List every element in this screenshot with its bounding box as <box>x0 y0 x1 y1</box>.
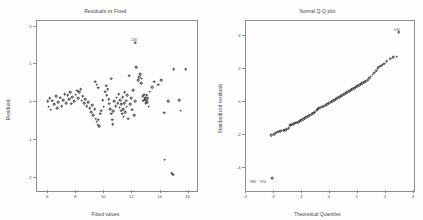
y-axis-tick <box>242 68 245 69</box>
x-axis-tick-label: 2 <box>384 194 386 199</box>
data-point <box>49 108 52 111</box>
data-point <box>117 93 120 96</box>
y-axis-tick-label: -4 <box>237 164 241 169</box>
data-point <box>157 84 160 87</box>
residuals-vs-fitted-frame <box>36 20 198 192</box>
data-point <box>287 127 290 130</box>
x-axis-tick-label: 1 <box>356 194 358 199</box>
data-point <box>133 114 136 117</box>
normal-qq-panel: Normal Q-Q plot 240980970-3-2-10123-4-20… <box>212 0 423 220</box>
data-point <box>78 91 81 94</box>
data-point <box>114 105 117 108</box>
y-axis-tick <box>242 134 245 135</box>
data-point <box>127 118 130 121</box>
x-axis-tick-label: 3 <box>412 194 414 199</box>
data-point <box>108 102 111 105</box>
data-point <box>101 99 104 102</box>
data-point <box>84 98 87 101</box>
y-axis-tick-label: -1 <box>28 137 32 142</box>
y-axis-tick <box>33 177 36 178</box>
residuals-vs-fitted-canvas <box>37 21 197 191</box>
data-point <box>153 81 156 84</box>
data-point <box>130 97 133 100</box>
data-point <box>107 88 110 91</box>
x-axis-tick <box>301 190 302 193</box>
data-point <box>68 98 71 101</box>
y-axis-tick <box>242 35 245 36</box>
y-axis-tick <box>242 101 245 102</box>
data-point <box>46 100 49 103</box>
data-point <box>53 103 56 106</box>
data-point <box>104 90 107 93</box>
point-label: 240 <box>394 28 400 32</box>
residuals-vs-fitted-xlabel: Fitted values <box>0 212 211 217</box>
data-point <box>163 158 166 161</box>
normal-qq-xlabel: Theoretical Quantiles <box>212 212 423 217</box>
x-axis-tick-label: 0 <box>328 194 330 199</box>
data-point <box>97 118 100 121</box>
data-point <box>91 104 94 107</box>
y-axis-tick <box>242 167 245 168</box>
data-point <box>79 88 82 91</box>
data-point <box>97 87 100 90</box>
data-point <box>92 114 95 117</box>
x-axis-tick <box>75 190 76 193</box>
x-axis-tick-label: 14 <box>157 194 162 199</box>
data-point <box>149 90 152 93</box>
normal-qq-canvas <box>246 21 414 191</box>
data-point <box>119 99 122 102</box>
data-point <box>126 94 129 97</box>
normal-qq-ylabel: Standardized residuals <box>218 86 223 134</box>
data-point <box>93 108 96 111</box>
data-point <box>73 100 76 103</box>
data-point <box>147 97 150 100</box>
x-axis-tick <box>273 190 274 193</box>
y-axis-tick-label: -2 <box>28 174 32 179</box>
data-point <box>140 78 143 81</box>
data-point <box>112 110 115 113</box>
data-point <box>110 112 113 115</box>
data-point <box>83 102 86 105</box>
data-point <box>172 173 175 176</box>
y-axis-tick-label: 1 <box>29 61 31 66</box>
data-point <box>81 95 84 98</box>
data-point <box>395 55 398 58</box>
x-axis-tick <box>245 190 246 193</box>
data-point <box>137 79 140 82</box>
y-axis-tick-label: 0 <box>29 99 31 104</box>
x-axis-tick-label: 16 <box>185 194 190 199</box>
residuals-vs-fitted-title: Residuals vs Fitted <box>0 9 211 14</box>
data-point <box>105 84 108 87</box>
data-point <box>121 96 124 99</box>
x-axis-tick <box>413 190 414 193</box>
data-point <box>62 99 65 102</box>
x-axis-tick <box>131 190 132 193</box>
y-axis-tick <box>33 101 36 102</box>
x-axis-tick <box>160 190 161 193</box>
data-point <box>123 102 126 105</box>
data-point <box>151 86 154 89</box>
y-axis-tick <box>33 139 36 140</box>
data-point <box>389 57 392 60</box>
data-point <box>134 100 137 103</box>
data-point <box>124 111 127 114</box>
data-point <box>100 109 103 112</box>
data-point <box>87 101 90 104</box>
data-point <box>88 107 91 110</box>
x-axis-tick-label: -3 <box>243 194 247 199</box>
data-point <box>98 125 101 128</box>
data-point <box>102 105 105 108</box>
x-axis-tick <box>329 190 330 193</box>
x-axis-tick-label: 8 <box>74 194 76 199</box>
data-point <box>60 105 63 108</box>
y-axis-tick-label: 4 <box>238 32 240 37</box>
normal-qq-frame <box>245 20 415 192</box>
y-axis-tick-label: 2 <box>29 23 31 28</box>
y-axis-tick-label: 2 <box>238 65 240 70</box>
data-point <box>110 78 113 81</box>
data-point <box>74 93 77 96</box>
residuals-vs-fitted-panel: Residuals vs Fitted 2406810121416-2-1012… <box>0 0 211 220</box>
y-axis-tick <box>33 63 36 64</box>
data-point <box>111 118 114 121</box>
x-axis-tick-label: 6 <box>46 194 48 199</box>
